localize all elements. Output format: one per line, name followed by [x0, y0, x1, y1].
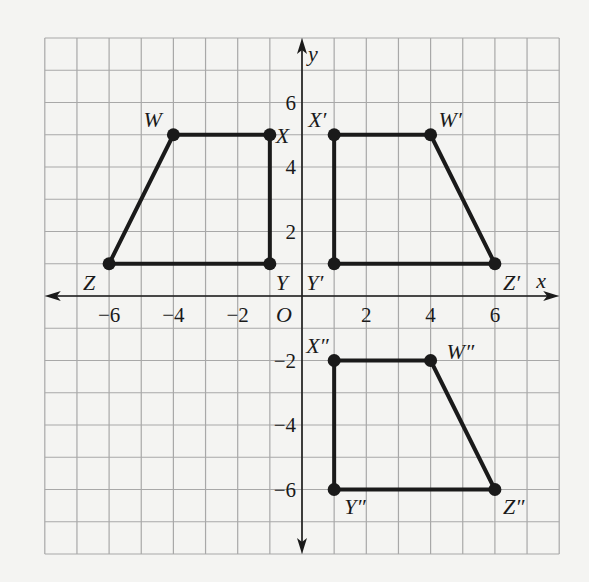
x-tick-label: 6	[490, 303, 501, 327]
vertex-label: Z″	[503, 494, 525, 519]
vertex-label: Y″	[344, 494, 366, 519]
vertex-label: Z′	[503, 270, 521, 295]
x-tick-label: −2	[227, 303, 249, 327]
vertex-point	[328, 354, 341, 367]
vertex-point	[328, 128, 341, 141]
y-tick-label: 4	[286, 155, 297, 179]
vertex-label: Y	[276, 270, 291, 295]
x-tick-label: 2	[361, 303, 372, 327]
vertex-point	[424, 354, 437, 367]
vertex-point	[328, 483, 341, 496]
vertex-point	[328, 257, 341, 270]
vertex-label: X′	[307, 107, 327, 132]
y-axis-label: y	[306, 41, 318, 66]
y-tick-label: 6	[286, 91, 297, 115]
y-tick-label: 2	[286, 220, 297, 244]
vertex-point	[488, 257, 501, 270]
y-tick-label: −6	[274, 478, 296, 502]
x-tick-label: −4	[162, 303, 185, 327]
axes: xyO	[45, 38, 559, 554]
y-tick-label: −4	[274, 413, 297, 437]
vertex-label: Z	[83, 270, 96, 295]
vertex-point	[263, 128, 276, 141]
vertex-label: X	[275, 123, 291, 148]
vertex-label: W	[143, 107, 163, 132]
vertex-label: Y′	[306, 270, 324, 295]
vertex-label: W″	[447, 339, 475, 364]
vertex-point	[103, 257, 116, 270]
origin-label: O	[276, 302, 292, 327]
vertex-point	[424, 128, 437, 141]
vertex-point	[167, 128, 180, 141]
y-tick-label: −2	[274, 349, 296, 373]
vertex-label: X″	[305, 333, 329, 358]
x-axis-label: x	[535, 268, 546, 293]
x-tick-label: 4	[425, 303, 436, 327]
coordinate-plane: xyO −6−4−2246642−2−4−6 WXYZW′X′Y′Z′W″X″Y…	[0, 0, 589, 582]
vertex-point	[263, 257, 276, 270]
vertex-label: W′	[439, 107, 463, 132]
x-tick-label: −6	[98, 303, 120, 327]
vertex-point	[488, 483, 501, 496]
